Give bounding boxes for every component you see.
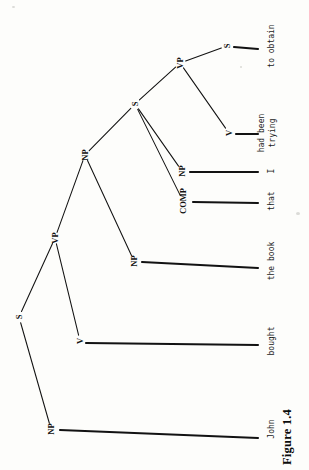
tree-leaf-trying: had been trying xyxy=(257,114,279,153)
leaf-line-l-thebook xyxy=(142,262,258,268)
leaf-line-l-obtain xyxy=(234,47,258,49)
figure-caption: Figure 1.4 xyxy=(280,409,295,465)
tree-edge-s1-vp1 xyxy=(21,243,52,311)
tree-edge-vp2-s3 xyxy=(186,48,222,61)
tree-node-vp1: VP xyxy=(51,232,60,243)
tree-edge-np2-np3 xyxy=(88,160,132,255)
tree-leaf-john: John xyxy=(267,419,278,438)
tree-node-v2: V xyxy=(225,130,234,136)
tree-node-v1: V xyxy=(76,338,85,344)
syntax-tree-graphic xyxy=(0,0,309,470)
tree-node-s3: S xyxy=(223,44,232,49)
tree-leaf-thebook: the book xyxy=(267,242,278,281)
leaf-line-l-john xyxy=(60,430,258,438)
leaf-line-l-bought xyxy=(86,343,258,345)
tree-edge-np2-s2 xyxy=(89,108,131,150)
tree-leaf-that: that xyxy=(267,191,278,210)
leaf-line-l-that xyxy=(193,202,258,203)
tree-node-s1: S xyxy=(15,315,24,320)
tree-node-np2: NP xyxy=(81,149,90,160)
tree-leaf-obtain: to obtain xyxy=(267,24,278,67)
tree-edge-vp2-v2 xyxy=(183,68,225,128)
tree-node-vp2: VP xyxy=(176,57,185,68)
tree-node-s2: S xyxy=(131,102,140,107)
tree-edge-s2-comp1 xyxy=(138,109,181,195)
tree-node-np4: NP xyxy=(178,165,187,176)
paper-speck xyxy=(240,66,242,68)
tree-edge-vp1-v1 xyxy=(56,244,78,335)
paper-speck xyxy=(12,6,15,8)
tree-node-np3: NP xyxy=(130,255,139,266)
tree-edge-s2-np4 xyxy=(138,109,178,166)
paper-speck xyxy=(296,212,300,215)
tree-edge-vp1-np2 xyxy=(57,161,83,233)
tree-edge-s1-np1 xyxy=(21,323,50,423)
tree-node-np1: NP xyxy=(47,423,56,434)
figure-panel: SNPVPVNPNPSCOMPNPVPVS Johnboughtthe book… xyxy=(0,0,309,470)
tree-node-comp1: COMP xyxy=(179,188,188,214)
tree-leaf-bought: bought xyxy=(267,327,278,356)
tree-leaf-i: I xyxy=(267,169,278,174)
leaf-line-layer xyxy=(60,47,258,438)
tree-edge-s2-vp2 xyxy=(139,67,175,100)
